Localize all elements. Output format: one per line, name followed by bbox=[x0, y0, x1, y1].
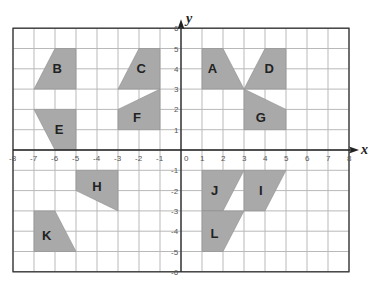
x-tick-label: -6 bbox=[51, 154, 59, 163]
y-tick-label: -6 bbox=[171, 268, 179, 277]
y-tick-label: 6 bbox=[174, 24, 179, 33]
shape-label-a: A bbox=[208, 61, 218, 76]
x-tick-label: -1 bbox=[156, 154, 164, 163]
y-tick-label: 1 bbox=[174, 126, 179, 135]
x-tick-label: -8 bbox=[9, 154, 17, 163]
shape-label-j: J bbox=[211, 183, 218, 198]
shape-label-f: F bbox=[133, 110, 141, 125]
x-tick-label: 4 bbox=[263, 154, 268, 163]
y-tick-label: -3 bbox=[171, 207, 179, 216]
shape-label-i: I bbox=[259, 183, 263, 198]
y-tick-label: -5 bbox=[171, 248, 179, 257]
y-tick-label: 3 bbox=[174, 85, 179, 94]
coordinate-plane: -8-7-6-5-4-3-2-112345678654321-1-2-3-4-5… bbox=[0, 0, 377, 288]
y-axis-label: y bbox=[184, 11, 193, 26]
x-tick-label: -5 bbox=[72, 154, 80, 163]
shape-label-d: D bbox=[265, 61, 274, 76]
x-tick-label: 8 bbox=[347, 154, 352, 163]
x-tick-label: -3 bbox=[114, 154, 122, 163]
x-axis-label: x bbox=[360, 142, 368, 157]
origin-label: 0 bbox=[184, 154, 189, 163]
y-tick-label: 2 bbox=[174, 105, 179, 114]
x-tick-label: 5 bbox=[284, 154, 289, 163]
shape-label-c: C bbox=[136, 61, 146, 76]
x-tick-label: -2 bbox=[135, 154, 143, 163]
x-tick-label: 6 bbox=[305, 154, 310, 163]
y-tick-label: -1 bbox=[171, 166, 179, 175]
y-tick-label: -4 bbox=[171, 227, 179, 236]
x-tick-label: 7 bbox=[326, 154, 331, 163]
x-tick-label: 3 bbox=[242, 154, 247, 163]
x-tick-label: 1 bbox=[200, 154, 205, 163]
shape-label-b: B bbox=[52, 61, 61, 76]
y-tick-label: 4 bbox=[174, 65, 179, 74]
shape-label-h: H bbox=[92, 179, 101, 194]
x-tick-label: 2 bbox=[221, 154, 226, 163]
shape-label-g: G bbox=[256, 110, 266, 125]
y-tick-label: -2 bbox=[171, 187, 179, 196]
x-tick-label: -7 bbox=[30, 154, 38, 163]
shape-label-k: K bbox=[42, 228, 52, 243]
shape-label-e: E bbox=[55, 122, 64, 137]
shape-label-l: L bbox=[211, 226, 219, 241]
y-tick-label: 5 bbox=[174, 45, 179, 54]
x-tick-label: -4 bbox=[93, 154, 101, 163]
